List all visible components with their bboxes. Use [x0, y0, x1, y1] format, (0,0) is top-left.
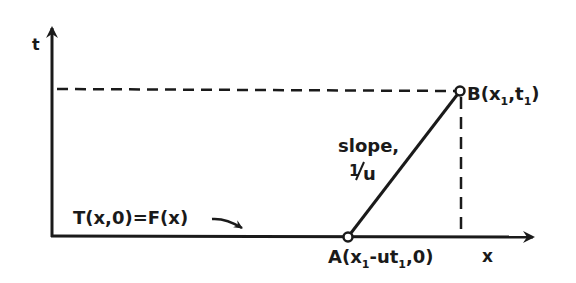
slope-denominator: u — [363, 163, 376, 184]
slope-fraction: 1 u — [349, 162, 376, 184]
initial-condition-label: T(x,0)=F(x) — [73, 207, 188, 228]
initial-condition-pointer-arrow — [212, 219, 242, 228]
t-axis-label: t — [32, 35, 40, 54]
point-a-label: A(x1-ut1,0) — [328, 246, 434, 271]
point-b-label: B(x1,t1) — [467, 83, 540, 108]
t1-dashed-line — [57, 89, 455, 91]
slope-label: slope, — [338, 135, 399, 156]
characteristic-diagram: t x B(x1,t1) A(x1-ut1,0) slope, 1 u T(x,… — [0, 0, 576, 283]
x-axis-label: x — [482, 246, 493, 266]
point-a-marker — [344, 233, 353, 242]
point-b-marker — [456, 87, 465, 96]
x-axis — [51, 236, 533, 237]
